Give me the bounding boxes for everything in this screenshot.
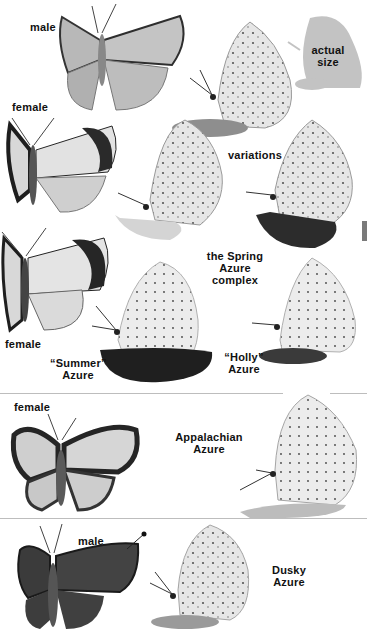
- appalachian-azure-ventral: [240, 395, 357, 518]
- label-summer-azure: “Summer” Azure: [50, 357, 106, 381]
- dusky-line-2: Azure: [266, 576, 312, 588]
- title-line-1: the Spring: [200, 250, 270, 262]
- label-male-dusky: male: [78, 535, 104, 547]
- title-dusky-azure: Dusky Azure: [266, 564, 312, 588]
- title-appalachian-azure: Appalachian Azure: [170, 431, 248, 455]
- appalachian-azure-female-dorsal: [13, 414, 137, 510]
- dusky-line-1: Dusky: [266, 564, 312, 576]
- label-actual-size: actual size: [308, 44, 348, 68]
- spring-azure-female-dorsal-bottom: [2, 228, 108, 330]
- section-tab-marker: [362, 221, 367, 241]
- summer-azure-ventral: [92, 262, 212, 382]
- summer-line-1: “Summer”: [50, 357, 106, 369]
- title-line-3: complex: [200, 274, 270, 286]
- spring-azure-variation-2: [246, 120, 352, 248]
- title-line-2: Azure: [200, 262, 270, 274]
- holly-line-2: Azure: [222, 363, 266, 375]
- label-female-appalachian: female: [14, 401, 50, 413]
- label-holly-azure: “Holly” Azure: [222, 351, 266, 375]
- spring-azure-male-dorsal: [60, 4, 184, 110]
- label-male: male: [30, 21, 56, 33]
- section-divider-1: [0, 393, 283, 394]
- label-variations: variations: [228, 149, 282, 161]
- spring-azure-ventral-top: [172, 22, 292, 137]
- dusky-azure-ventral: [150, 525, 249, 629]
- section-divider-1b: [330, 393, 367, 394]
- title-spring-azure-complex: the Spring Azure complex: [200, 250, 270, 286]
- spring-azure-variation-1: [115, 120, 222, 240]
- appalachian-line-1: Appalachian: [170, 431, 248, 443]
- appalachian-line-2: Azure: [170, 443, 248, 455]
- butterfly-illustrations: [0, 0, 367, 629]
- summer-line-2: Azure: [50, 369, 106, 381]
- label-actual: actual size: [311, 44, 345, 68]
- section-divider-2: [0, 518, 367, 519]
- holly-line-1: “Holly”: [222, 351, 266, 363]
- spring-azure-female-dorsal-top: [8, 118, 116, 212]
- label-female-bottom: female: [5, 338, 41, 350]
- label-female-top: female: [12, 101, 48, 113]
